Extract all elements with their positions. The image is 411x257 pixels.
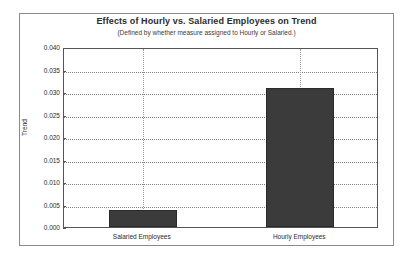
y-axis-tick-mark xyxy=(63,228,66,229)
y-axis-tick-mark xyxy=(63,161,66,162)
x-axis-tick-label: Hourly Employees xyxy=(273,233,326,240)
y-axis-tick-mark xyxy=(63,116,66,117)
y-axis-tick-label: 0.035 xyxy=(20,67,60,74)
chart-subtitle: (Defined by whether measure assigned to … xyxy=(19,29,394,36)
x-axis-tick-label: Salaried Employees xyxy=(113,233,171,240)
y-axis-tick-mark xyxy=(63,93,66,94)
y-axis-tick-mark xyxy=(63,183,66,184)
y-axis-tick-label: 0.000 xyxy=(20,224,60,231)
plot-area xyxy=(63,48,378,228)
y-axis-tick-labels: 0.0000.0050.0100.0150.0200.0250.0300.035… xyxy=(18,48,60,228)
y-axis-tick-mark xyxy=(63,71,66,72)
y-axis-tick-mark xyxy=(63,206,66,207)
y-axis-tick-label: 0.020 xyxy=(20,134,60,141)
y-axis-tick-label: 0.005 xyxy=(20,202,60,209)
plot-inner xyxy=(64,49,377,227)
y-axis-tick-label: 0.040 xyxy=(20,44,60,51)
bar[interactable] xyxy=(266,88,334,228)
y-axis-tick-mark xyxy=(63,48,66,49)
y-axis-tick-label: 0.030 xyxy=(20,89,60,96)
y-axis-tick-label: 0.025 xyxy=(20,112,60,119)
y-axis-tick-mark xyxy=(63,138,66,139)
chart-figure: Effects of Hourly vs. Salaried Employees… xyxy=(0,0,411,257)
chart-title: Effects of Hourly vs. Salaried Employees… xyxy=(19,16,394,26)
y-axis-tick-label: 0.010 xyxy=(20,179,60,186)
gridline-horizontal xyxy=(64,72,377,73)
bar[interactable] xyxy=(109,210,177,227)
y-axis-tick-label: 0.015 xyxy=(20,157,60,164)
gridline-vertical xyxy=(143,49,144,227)
